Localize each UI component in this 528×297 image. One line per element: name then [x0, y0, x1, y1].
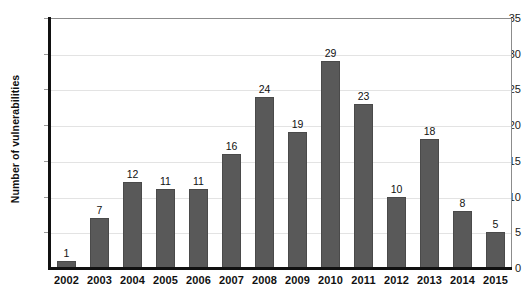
- gridline: [50, 233, 511, 234]
- bar-value-label: 11: [160, 175, 171, 187]
- bar-value-label: 8: [460, 197, 466, 209]
- gridline: [50, 90, 511, 91]
- x-axis-tick-label: 2013: [417, 274, 442, 286]
- gridline: [50, 198, 511, 199]
- x-axis-tick-label: 2006: [186, 274, 211, 286]
- bar: [288, 132, 307, 268]
- bar: [255, 97, 274, 268]
- bar-value-label: 1: [64, 247, 70, 259]
- y-axis-spine: [48, 17, 51, 269]
- x-axis-tick-label: 2007: [219, 274, 244, 286]
- x-axis-tick-label: 2005: [153, 274, 178, 286]
- x-axis-tick-label: 2010: [318, 274, 343, 286]
- bar: [453, 211, 472, 268]
- bar: [420, 139, 439, 268]
- bar-value-label: 12: [127, 168, 139, 180]
- x-axis-tick-label: 2003: [87, 274, 112, 286]
- bar-value-label: 29: [325, 47, 337, 59]
- x-axis-tick-label: 2012: [384, 274, 409, 286]
- x-axis-tick-label: 2008: [252, 274, 277, 286]
- x-axis-tick-label: 2015: [483, 274, 508, 286]
- bar: [387, 197, 406, 268]
- bar-value-label: 5: [493, 218, 499, 230]
- gridline: [50, 55, 511, 56]
- x-axis-tick-label: 2011: [351, 274, 375, 286]
- x-axis-tick-label: 2004: [120, 274, 145, 286]
- bar: [354, 104, 373, 268]
- bar-chart-figure: Number of vulnerabilities 05101520253035…: [0, 0, 528, 297]
- gridline: [50, 126, 511, 127]
- x-axis-tick-label: 2009: [285, 274, 310, 286]
- bar-value-label: 10: [391, 183, 403, 195]
- bar: [156, 189, 175, 268]
- bar-value-label: 16: [226, 140, 238, 152]
- bar-value-label: 11: [193, 175, 204, 187]
- bar-value-label: 19: [292, 118, 304, 130]
- plot-area: [50, 18, 512, 268]
- bar: [321, 61, 340, 268]
- bar: [90, 218, 109, 268]
- gridline: [50, 162, 511, 163]
- bar: [486, 232, 505, 268]
- bar: [189, 189, 208, 268]
- bar: [123, 182, 142, 268]
- y-axis-title: Number of vulnerabilities: [8, 14, 22, 264]
- bar-value-label: 18: [424, 125, 436, 137]
- bar-value-label: 23: [358, 90, 370, 102]
- x-axis-tick-label: 2014: [450, 274, 475, 286]
- bar-value-label: 24: [259, 83, 271, 95]
- x-axis-tick-label: 2002: [54, 274, 79, 286]
- x-axis-spine: [48, 267, 512, 270]
- bar-value-label: 7: [97, 204, 103, 216]
- bar: [222, 154, 241, 268]
